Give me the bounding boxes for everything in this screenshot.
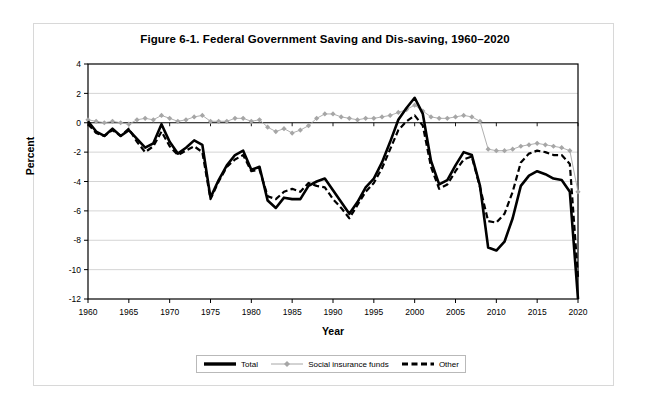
series-marker-social-insurance-funds [453,114,458,119]
y-tick-label: -10 [69,265,82,275]
x-tick-label: 2000 [405,307,424,317]
x-tick-label: 1960 [79,307,98,317]
y-tick-label: 0 [76,118,81,128]
series-layer [85,98,580,299]
series-marker-social-insurance-funds [518,144,523,149]
series-marker-social-insurance-funds [102,120,107,125]
series-line-other [88,115,578,277]
x-tick-label: 1965 [119,307,138,317]
y-tick-label: 4 [76,59,81,69]
legend-item-social-insurance-funds[interactable]: Social insurance funds [270,358,389,370]
legend-swatch-total [203,358,237,370]
series-marker-social-insurance-funds [330,111,335,116]
series-marker-social-insurance-funds [281,126,286,131]
series-marker-social-insurance-funds [396,110,401,115]
x-tick-label: 1995 [364,307,383,317]
series-marker-social-insurance-funds [273,129,278,134]
x-tick-label: 1975 [201,307,220,317]
legend-label-social-insurance-funds: Social insurance funds [308,360,389,369]
x-tick-label: 1970 [160,307,179,317]
series-marker-social-insurance-funds [355,117,360,122]
y-tick-label: -6 [73,206,81,216]
series-marker-social-insurance-funds [241,116,246,121]
series-marker-social-insurance-funds [290,130,295,135]
series-marker-social-insurance-funds [575,189,580,194]
x-tick-label: 1980 [242,307,261,317]
series-marker-social-insurance-funds [363,116,368,121]
y-tick-label: -8 [73,235,81,245]
series-marker-social-insurance-funds [445,116,450,121]
series-marker-social-insurance-funds [151,117,156,122]
x-tick-label: 1985 [283,307,302,317]
series-marker-social-insurance-funds [535,141,540,146]
series-marker-social-insurance-funds [322,111,327,116]
series-marker-social-insurance-funds [510,147,515,152]
series-marker-social-insurance-funds [232,116,237,121]
series-marker-social-insurance-funds [388,113,393,118]
legend-label-total: Total [241,360,258,369]
series-marker-social-insurance-funds [551,144,556,149]
series-marker-social-insurance-funds [143,116,148,121]
legend-item-total[interactable]: Total [203,358,258,370]
legend-swatch-other [401,358,435,370]
x-tick-label: 2020 [569,307,588,317]
series-marker-social-insurance-funds [134,117,139,122]
series-marker-social-insurance-funds [298,127,303,132]
y-axis-ticks: 420-2-4-6-8-10-12 [69,59,88,304]
series-marker-social-insurance-funds [486,147,491,152]
y-tick-label: -4 [73,177,81,187]
series-marker-social-insurance-funds [118,120,123,125]
legend-swatch-social-insurance-funds [270,358,304,370]
y-tick-label: -12 [69,294,82,304]
series-line-total [88,98,578,299]
series-marker-social-insurance-funds [543,142,548,147]
series-marker-social-insurance-funds [469,114,474,119]
series-marker-social-insurance-funds [167,116,172,121]
series-marker-social-insurance-funds [347,116,352,121]
series-marker-social-insurance-funds [461,113,466,118]
series-marker-social-insurance-funds [371,116,376,121]
y-tick-label: -2 [73,147,81,157]
y-tick-label: 2 [76,89,81,99]
series-marker-social-insurance-funds [192,114,197,119]
chart-root: Figure 6-1. Federal Government Saving an… [0,0,647,410]
series-marker-social-insurance-funds [526,142,531,147]
series-marker-social-insurance-funds [183,117,188,122]
series-marker-social-insurance-funds [437,116,442,121]
plot-area: 420-2-4-6-8-10-12 1960196519701975198019… [0,0,647,410]
series-marker-social-insurance-funds [559,145,564,150]
x-tick-label: 2015 [528,307,547,317]
series-marker-social-insurance-funds [339,114,344,119]
x-tick-label: 2010 [487,307,506,317]
x-tick-label: 2005 [446,307,465,317]
legend-label-other: Other [439,360,459,369]
x-tick-label: 1990 [324,307,343,317]
chart-legend: Total Social insurance funds Other [196,355,466,373]
legend-item-other[interactable]: Other [401,358,459,370]
series-marker-social-insurance-funds [379,114,384,119]
series-marker-social-insurance-funds [159,113,164,118]
